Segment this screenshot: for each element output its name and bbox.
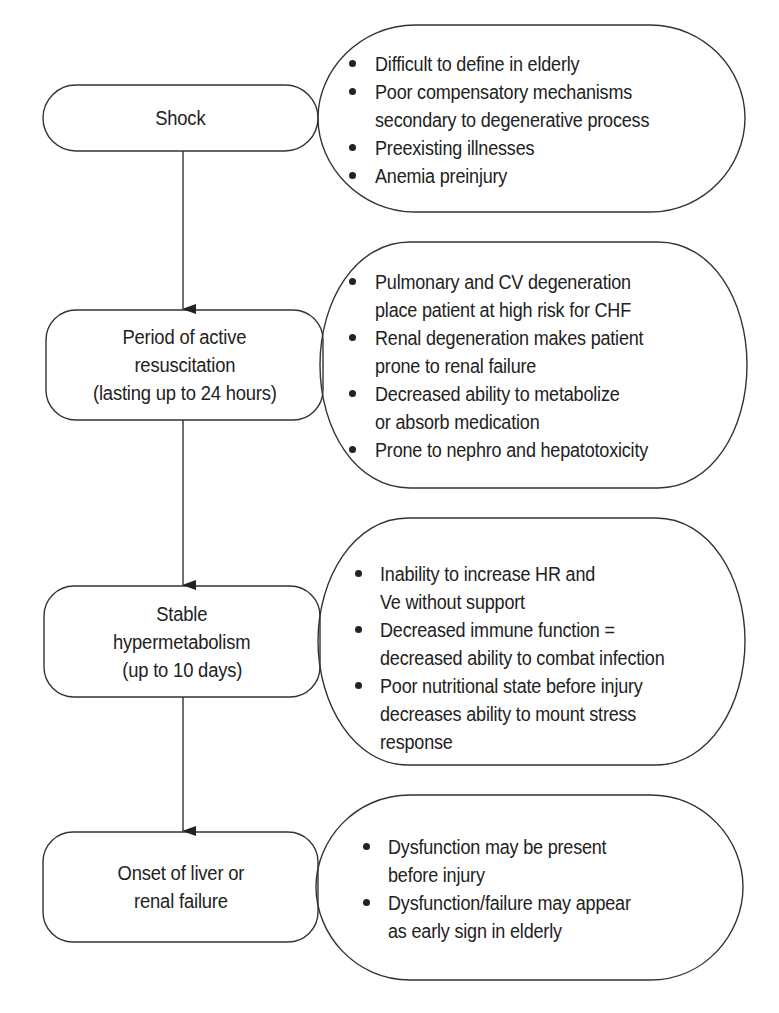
stage-organ-failure: Onset of liver or renal failure: [43, 832, 318, 942]
bullet-icon: [363, 843, 370, 850]
stage-hypermetabolism-line-3: (up to 10 days): [122, 656, 242, 684]
note-3-bullet-1-line-2: Ve without support: [380, 588, 525, 616]
note-1-bullet-3-line-1: Preexisting illnesses: [375, 134, 534, 162]
note-2-bullet-3-line-1: Decreased ability to metabolize: [375, 380, 620, 408]
note-2-bullet-1-line-1: Pulmonary and CV degeneration: [375, 268, 631, 296]
note-bubble-4-outline: [316, 795, 743, 980]
bullet-icon: [355, 626, 362, 633]
note-4-bullet-1-line-1: Dysfunction may be present: [388, 833, 606, 861]
bullet-icon: [349, 278, 356, 285]
stage-resuscitation-line-3: (lasting up to 24 hours): [93, 379, 277, 407]
stage-stable-hypermetabolism: Stable hypermetabolism (up to 10 days): [44, 586, 320, 697]
bullet-icon: [349, 446, 356, 453]
note-2-bullet-1-line-2: place patient at high risk for CHF: [375, 296, 631, 324]
note-3-bullet-2-line-1: Decreased immune function =: [380, 616, 615, 644]
bullet-icon: [349, 60, 356, 67]
bullet-icon: [349, 334, 356, 341]
note-3-bullet-3-line-1: Poor nutritional state before injury: [380, 672, 643, 700]
stage-hypermetabolism-line-1: Stable: [156, 600, 207, 628]
bullet-icon: [349, 88, 356, 95]
stage-failure-line-1: Onset of liver or: [117, 859, 244, 887]
note-4-bullet-1-line-2: before injury: [388, 861, 485, 889]
note-2-bullet-2-line-1: Renal degeneration makes patient: [375, 324, 643, 352]
note-4-bullet-2-line-2: as early sign in elderly: [388, 917, 562, 945]
stage-hypermetabolism-line-2: hypermetabolism: [113, 628, 250, 656]
stage-shock: Shock: [43, 85, 318, 151]
note-2-bullet-4-line-1: Prone to nephro and hepatotoxicity: [375, 436, 648, 464]
bullet-icon: [349, 144, 356, 151]
note-2-bullet-2-line-2: prone to renal failure: [375, 352, 536, 380]
note-1-bullet-4-line-1: Anemia preinjury: [375, 162, 507, 190]
bullet-icon: [349, 172, 356, 179]
bullet-icon: [349, 390, 356, 397]
stage-resuscitation-line-2: resuscitation: [134, 351, 235, 379]
note-3-bullet-2-line-2: decreased ability to combat infection: [380, 644, 665, 672]
bullet-icon: [355, 682, 362, 689]
note-4-bullet-2-line-1: Dysfunction/failure may appear: [388, 889, 631, 917]
stage-resuscitation-line-1: Period of active: [123, 323, 247, 351]
note-2-bullet-3-line-2: or absorb medication: [375, 408, 540, 436]
stage-shock-label: Shock: [155, 104, 205, 132]
note-1-bullet-1-line-1: Difficult to define in elderly: [375, 50, 579, 78]
note-3-bullet-1-line-1: Inability to increase HR and: [380, 560, 595, 588]
note-3-bullet-3-line-3: response: [380, 728, 453, 756]
note-1-bullet-2-line-2: secondary to degenerative process: [375, 106, 649, 134]
stage-failure-line-2: renal failure: [134, 887, 228, 915]
bullet-icon: [363, 899, 370, 906]
bullet-icon: [355, 570, 362, 577]
note-3-bullet-3-line-2: decreases ability to mount stress: [380, 700, 636, 728]
stage-active-resuscitation: Period of active resuscitation (lasting …: [46, 310, 323, 420]
note-1-bullet-2-line-1: Poor compensatory mechanisms: [375, 78, 632, 106]
